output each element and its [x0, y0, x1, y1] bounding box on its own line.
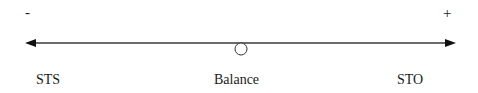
balance-point-marker-icon [235, 43, 247, 55]
label-balance: Balance [214, 72, 259, 88]
positive-sign: + [443, 6, 451, 21]
left-arrowhead-icon [25, 39, 36, 47]
right-arrowhead-icon [445, 39, 456, 47]
label-sts: STS [36, 72, 60, 88]
negative-sign: - [25, 5, 30, 20]
label-sto: STO [397, 72, 423, 88]
